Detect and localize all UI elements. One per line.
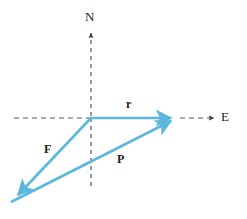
north-axis-label: N — [85, 10, 94, 23]
vector-F-label: F — [44, 143, 51, 155]
vector-P-arrow — [11, 121, 171, 202]
vector-F-arrow — [18, 118, 91, 195]
vector-P-label: P — [117, 153, 124, 165]
east-axis-label: E — [221, 110, 229, 123]
vector-diagram-figure: N E r F P — [0, 0, 247, 219]
vector-r-label: r — [126, 98, 131, 110]
vector-diagram-canvas — [0, 0, 247, 219]
